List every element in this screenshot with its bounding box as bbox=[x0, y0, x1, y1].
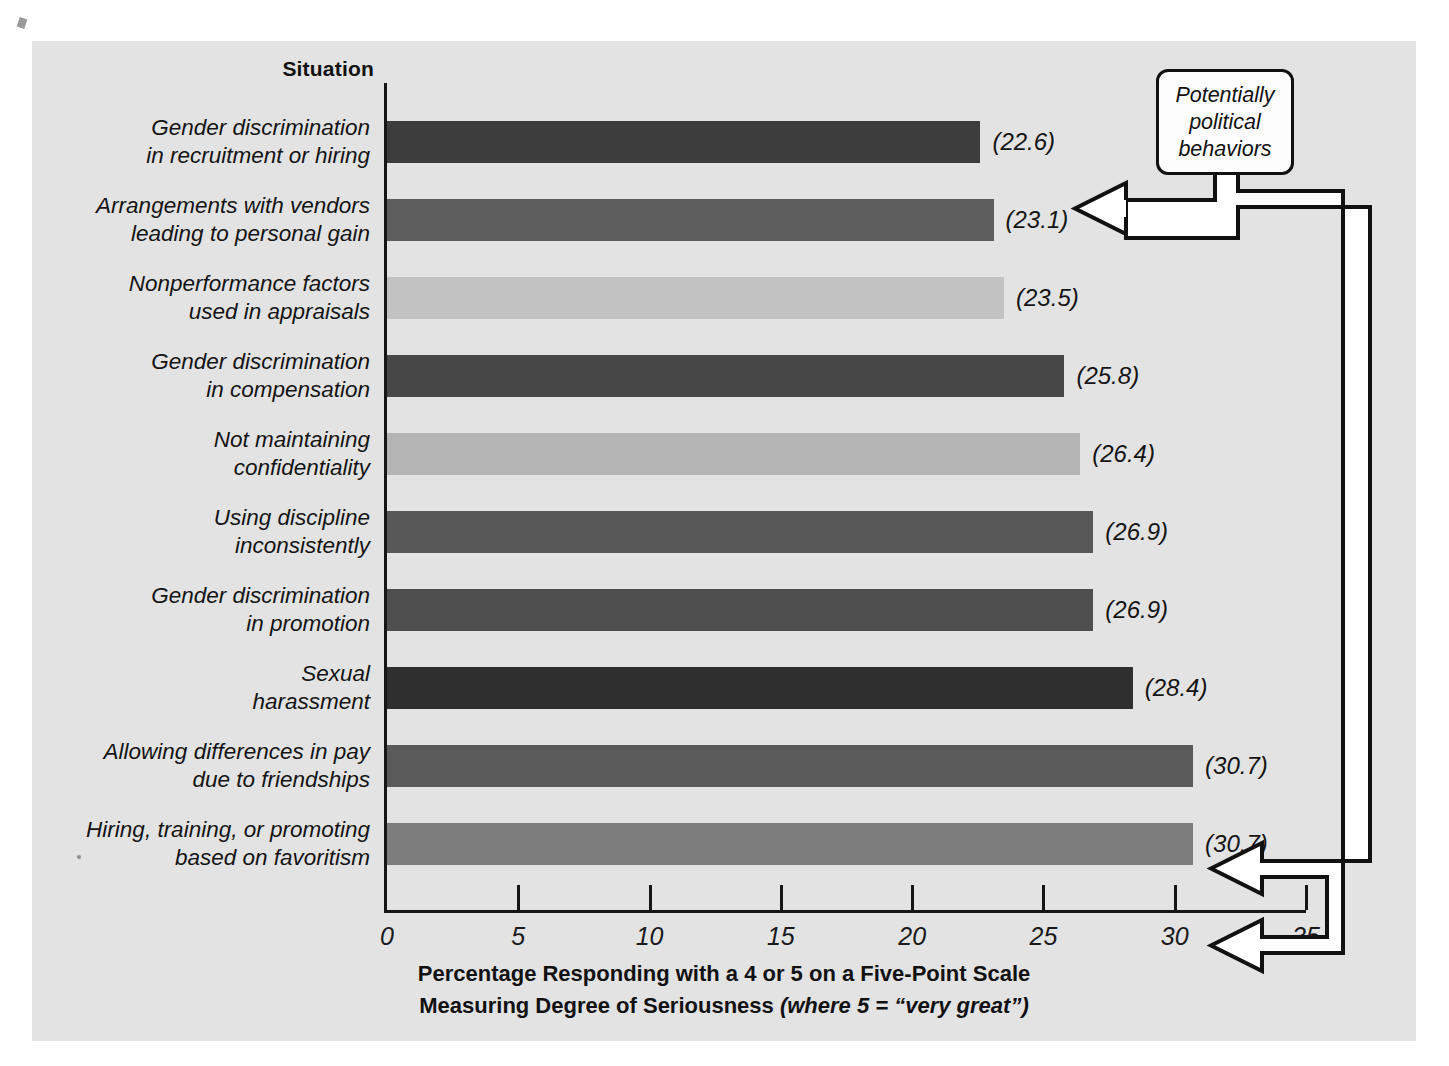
caption-line-2-bold: Measuring Degree of Seriousness bbox=[419, 993, 780, 1018]
page-speck bbox=[17, 17, 28, 29]
bar-row: Gender discrimination in compensation(25… bbox=[32, 337, 1416, 415]
x-axis-tick bbox=[911, 885, 914, 910]
bar-row: Arrangements with vendors leading to per… bbox=[32, 181, 1416, 259]
bar-row: Gender discrimination in promotion(26.9) bbox=[32, 571, 1416, 649]
bar-row: Nonperformance factors used in appraisal… bbox=[32, 259, 1416, 337]
x-axis-tick bbox=[517, 885, 520, 910]
x-axis-tick bbox=[1305, 885, 1308, 910]
bar-value-label: (22.6) bbox=[992, 128, 1055, 156]
bar-category-label: Allowing differences in pay due to frien… bbox=[0, 738, 370, 794]
bar bbox=[387, 355, 1064, 397]
bar-category-label: Using discipline inconsistently bbox=[0, 504, 370, 560]
bar-value-label: (26.9) bbox=[1105, 518, 1168, 546]
bar-category-label: Hiring, training, or promoting based on … bbox=[0, 816, 370, 872]
bar-value-label: (26.9) bbox=[1105, 596, 1168, 624]
bar-category-label: Gender discrimination in compensation bbox=[0, 348, 370, 404]
bar bbox=[387, 433, 1080, 475]
bar-category-label: Arrangements with vendors leading to per… bbox=[0, 192, 370, 248]
x-axis-tick bbox=[1174, 885, 1177, 910]
x-axis-tick bbox=[1042, 885, 1045, 910]
bar-row: Not maintaining confidentiality(26.4) bbox=[32, 415, 1416, 493]
x-axis-tick-label: 25 bbox=[1013, 922, 1073, 951]
chart-panel: Situation Gender discrimination in recru… bbox=[32, 41, 1416, 1041]
x-axis-line bbox=[384, 910, 1306, 913]
x-axis-tick-label: 5 bbox=[488, 922, 548, 951]
bar-value-label: (26.4) bbox=[1092, 440, 1155, 468]
bar-category-label: Not maintaining confidentiality bbox=[0, 426, 370, 482]
x-axis-tick bbox=[780, 885, 783, 910]
bar-category-label: Gender discrimination in recruitment or … bbox=[0, 114, 370, 170]
y-axis-title: Situation bbox=[122, 57, 374, 81]
x-axis-tick-label: 15 bbox=[751, 922, 811, 951]
bar-value-label: (25.8) bbox=[1076, 362, 1139, 390]
x-axis-tick-label: 30 bbox=[1145, 922, 1205, 951]
x-axis-caption: Percentage Responding with a 4 or 5 on a… bbox=[32, 958, 1416, 1022]
plot-area: Situation Gender discrimination in recru… bbox=[32, 41, 1416, 1041]
bar-row: Allowing differences in pay due to frien… bbox=[32, 727, 1416, 805]
bar-value-label: (23.5) bbox=[1016, 284, 1079, 312]
bar bbox=[387, 667, 1133, 709]
x-axis-tick bbox=[649, 885, 652, 910]
bar-row: Hiring, training, or promoting based on … bbox=[32, 805, 1416, 883]
bar bbox=[387, 745, 1193, 787]
bar-row: Using discipline inconsistently(26.9) bbox=[32, 493, 1416, 571]
x-axis-tick-label: 10 bbox=[620, 922, 680, 951]
x-axis-tick-label: 0 bbox=[357, 922, 417, 951]
bar-category-label: Nonperformance factors used in appraisal… bbox=[0, 270, 370, 326]
bar-row: Sexual harassment(28.4) bbox=[32, 649, 1416, 727]
bar bbox=[387, 277, 1004, 319]
bar bbox=[387, 589, 1093, 631]
bar-value-label: (28.4) bbox=[1145, 674, 1208, 702]
bar bbox=[387, 199, 994, 241]
bar-value-label: (30.7) bbox=[1205, 830, 1268, 858]
bar-value-label: (30.7) bbox=[1205, 752, 1268, 780]
x-axis-tick-label: 20 bbox=[882, 922, 942, 951]
bar-category-label: Sexual harassment bbox=[0, 660, 370, 716]
bar bbox=[387, 511, 1093, 553]
caption-line-1: Percentage Responding with a 4 or 5 on a… bbox=[418, 961, 1030, 986]
bar bbox=[387, 823, 1193, 865]
callout-box: Potentially political behaviors bbox=[1156, 69, 1294, 175]
callout-label: Potentially political behaviors bbox=[1175, 82, 1274, 163]
x-axis-tick-label: 35 bbox=[1276, 922, 1336, 951]
bar-value-label: (23.1) bbox=[1006, 206, 1069, 234]
caption-line-2-italic: (where 5 = “very great”) bbox=[780, 993, 1029, 1018]
bar bbox=[387, 121, 980, 163]
bar-category-label: Gender discrimination in promotion bbox=[0, 582, 370, 638]
page-speck-2 bbox=[77, 855, 81, 859]
